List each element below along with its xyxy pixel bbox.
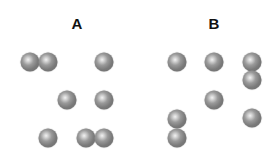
sphere-icon — [168, 53, 187, 72]
sphere-icon — [168, 110, 187, 129]
sphere-icon — [39, 129, 58, 148]
sphere-icon — [95, 91, 114, 110]
sphere-icon — [77, 129, 96, 148]
panel-label-b: B — [209, 15, 220, 32]
sphere-icon — [95, 129, 114, 148]
sphere-icon — [243, 53, 262, 72]
sphere-icon — [21, 53, 40, 72]
sphere-icon — [243, 109, 262, 128]
sphere-icon — [205, 91, 224, 110]
sphere-icon — [58, 91, 77, 110]
sphere-icon — [243, 71, 262, 90]
sphere-icon — [205, 53, 224, 72]
sphere-icon — [95, 53, 114, 72]
panel-label-a: A — [72, 15, 83, 32]
sphere-icon — [39, 53, 58, 72]
sphere-icon — [168, 129, 187, 148]
